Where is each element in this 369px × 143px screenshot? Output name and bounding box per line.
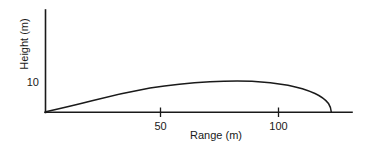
trajectory-curve bbox=[46, 81, 332, 112]
x-axis-title: Range (m) bbox=[190, 129, 242, 141]
trajectory-chart-figure: 10 50 100 Range (m) Height (m) bbox=[0, 0, 369, 143]
trajectory-plot: 10 50 100 Range (m) Height (m) bbox=[0, 0, 369, 143]
y-axis-title: Height (m) bbox=[18, 18, 30, 69]
x-tick-label-100: 100 bbox=[269, 120, 287, 132]
y-tick-label-10: 10 bbox=[27, 76, 39, 88]
x-tick-label-50: 50 bbox=[154, 120, 166, 132]
